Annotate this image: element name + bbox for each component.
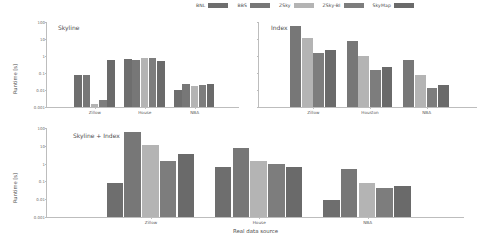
y-tick-label: 10: [40, 37, 45, 42]
bar: [174, 90, 182, 107]
bar: [370, 70, 381, 107]
bar: [207, 84, 215, 107]
bar: [141, 58, 149, 107]
x-tick-label: NBA: [363, 220, 372, 225]
bar: [323, 200, 340, 217]
bar: [83, 75, 91, 107]
legend-label: ZSky: [279, 3, 291, 8]
bar: [215, 167, 232, 217]
bar: [199, 85, 207, 107]
panel-index: Index ZillowHoustonNBA: [250, 18, 486, 125]
x-tick-mark: [145, 107, 146, 109]
bar: [438, 85, 449, 107]
bar: [325, 50, 336, 107]
plot-area-skyline-index: Skyline + Index 1001010.10.010.001 Zillo…: [46, 128, 464, 218]
bar: [268, 164, 285, 217]
legend-swatch: [394, 3, 414, 8]
bar: [107, 60, 115, 107]
bar: [74, 75, 82, 107]
bars-skyline-index: [47, 128, 464, 217]
x-tick-mark: [195, 107, 196, 109]
bar: [124, 132, 141, 217]
bar: [250, 161, 267, 217]
legend-item-zsky-bi: ZSky-BI: [323, 3, 364, 8]
bar: [358, 56, 369, 107]
y-tick-label: 100: [38, 126, 45, 131]
bar: [313, 53, 324, 107]
bar: [403, 60, 414, 107]
bar: [107, 183, 124, 217]
legend-label: ZSky-BI: [323, 3, 341, 8]
y-tick-label: 0.1: [39, 71, 45, 76]
panel-skyline-index: Skyline + Index 1001010.10.010.001 Zillo…: [0, 125, 486, 239]
x-tick-label: Zillow: [89, 110, 101, 115]
y-tick-label: 0.01: [36, 197, 45, 202]
bar: [382, 67, 393, 107]
bar: [394, 186, 411, 217]
x-tick-label: NBA: [422, 110, 431, 115]
legend-item-bnl: BNL: [196, 3, 228, 8]
y-tick-label: 0.1: [39, 179, 45, 184]
x-tick-mark: [368, 217, 369, 219]
bar: [302, 38, 313, 107]
chart-legend: BNLBBSZSkyZSky-BISkyMap: [196, 3, 414, 8]
bar: [178, 154, 195, 217]
legend-swatch: [294, 3, 314, 8]
legend-label: BBS: [237, 3, 246, 8]
legend-swatch: [208, 3, 228, 8]
x-tick-mark: [427, 107, 428, 109]
y-tick-mark: [45, 107, 47, 108]
x-tick-mark: [95, 107, 96, 109]
y-tick-label: 100: [38, 20, 45, 25]
bar: [233, 148, 250, 217]
x-tick-mark: [259, 217, 260, 219]
bar: [160, 161, 177, 217]
x-tick-label: House: [253, 220, 266, 225]
x-tick-mark: [370, 107, 371, 109]
bar: [359, 183, 376, 217]
y-tick-mark: [257, 107, 259, 108]
bar: [124, 59, 132, 107]
bar: [191, 86, 199, 107]
y-axis-label-skyline: Runtime [s]: [12, 64, 18, 94]
legend-swatch: [344, 3, 364, 8]
x-tick-label: House: [138, 110, 151, 115]
y-tick-mark: [45, 217, 47, 218]
plot-area-index: Index ZillowHoustonNBA: [258, 22, 477, 108]
y-tick-label: 1: [43, 161, 45, 166]
panel-skyline: Skyline 1001010.10.010.001 ZillowHouseNB…: [0, 18, 250, 125]
bar: [149, 58, 157, 107]
bar: [132, 60, 140, 107]
bar: [290, 26, 301, 107]
y-tick-label: 0.001: [34, 105, 45, 110]
y-tick-label: 0.001: [34, 215, 45, 220]
y-axis-label-skyline-index: Runtime [s]: [12, 173, 18, 203]
x-tick-label: Zillow: [307, 110, 319, 115]
legend-swatch: [250, 3, 270, 8]
legend-label: BNL: [196, 3, 205, 8]
bars-index: [259, 22, 477, 107]
x-tick-label: Zillow: [145, 220, 157, 225]
y-tick-label: 1: [43, 54, 45, 59]
x-axis-label: Real data source: [233, 228, 278, 234]
x-tick-label: NBA: [190, 110, 199, 115]
bar: [347, 41, 358, 107]
bar: [427, 88, 438, 107]
bar: [182, 84, 190, 107]
bar: [157, 61, 165, 107]
x-tick-mark: [151, 217, 152, 219]
legend-item-zsky: ZSky: [279, 3, 314, 8]
figure: BNLBBSZSkyZSky-BISkyMap Skyline 1001010.…: [0, 0, 486, 239]
legend-label: SkyMap: [373, 3, 391, 8]
bars-skyline: [47, 22, 239, 107]
bar: [415, 75, 426, 107]
bar: [286, 167, 303, 217]
bar: [142, 145, 159, 217]
plot-area-skyline: Skyline 1001010.10.010.001 ZillowHouseNB…: [46, 22, 239, 108]
y-tick-label: 10: [40, 143, 45, 148]
bar: [341, 169, 358, 217]
bar: [376, 188, 393, 217]
x-tick-mark: [313, 107, 314, 109]
legend-item-skymap: SkyMap: [373, 3, 414, 8]
legend-item-bbs: BBS: [237, 3, 269, 8]
